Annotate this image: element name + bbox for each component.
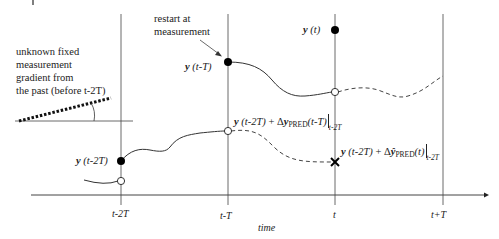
label-arg: (t-2T) [83,155,108,166]
label-arg: (t) [310,24,320,35]
label-var: y [303,24,308,35]
label-sub: PRED [288,120,307,129]
label-prediction-t: y (t-2T) + ΔŷPRED(t)t-2T [341,144,439,164]
predicted-curve-to-x [231,130,333,162]
gradient-line-4: the past (before t-2T) [16,84,106,97]
label-var: y [185,61,190,72]
gradient-angle-arc [91,103,95,121]
gradient-line-1: unknown fixed [16,45,106,58]
gradient-annotation: unknown fixed measurement gradient from … [16,45,106,97]
gradient-line-3: gradient from [16,71,106,84]
label-var: y [234,116,239,127]
curve-t-2T-to-t-T [121,131,225,161]
tick-label-t+T: t+T [431,209,446,221]
label-arg: (t-T) [192,61,211,72]
open-point-t-2T [117,177,124,184]
curve-before-t-2T [84,180,118,183]
label-arg2: (t) [415,146,425,157]
tick-label-t-2T: t-2T [112,208,129,220]
restart-annotation: restart at measurement [154,12,210,38]
label-y-t-T: y (t-T) [185,61,212,73]
time-axis-arrowhead [484,193,489,198]
measurement-point-y-t-T [224,58,232,66]
label-arg2: (t-T) [308,116,327,127]
label-eval: t-2T [329,123,342,132]
label-plus-delta: + Δ [373,146,391,157]
restart-line-2: measurement [154,25,210,38]
label-arg: (t-2T) [348,146,373,157]
gradient-line-2: measurement [16,58,106,71]
measurement-point-y-t-2T [117,157,125,165]
predicted-curve-future [338,76,443,97]
label-y-t: y (t) [303,24,320,36]
x-axis-label: time [258,222,275,234]
label-eval: t-2T [427,153,440,162]
tick-label-t-T: t-T [220,210,232,222]
label-y-t-2T: y (t-2T) [76,155,108,167]
open-point-t-T [224,127,231,134]
label-sub: PRED [395,150,414,159]
label-prediction-t-T: y (t-2T) + ΔyPRED(t-T)t-2T [234,114,341,134]
tick-label-t: t [333,209,336,221]
label-var: y [341,146,346,157]
label-var: y [76,155,81,166]
gradient-dotted-line [19,98,111,121]
measurement-point-y-t [331,26,339,34]
restart-line-1: restart at [154,12,210,25]
open-point-t [331,88,338,95]
label-arg: (t-2T) [241,116,266,127]
restart-arrow-line [200,40,219,54]
label-plus-delta: + Δ [266,116,284,127]
curve-t-T-to-t [228,62,332,96]
